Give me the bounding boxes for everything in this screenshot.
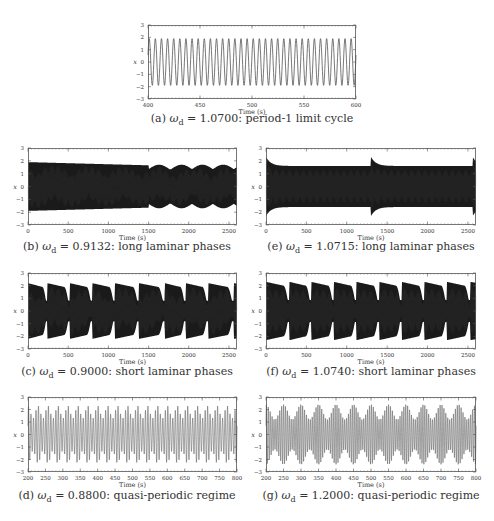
svg-text:1000: 1000 bbox=[340, 352, 354, 358]
svg-text:600: 600 bbox=[351, 102, 362, 108]
panel-letter: (e) bbox=[267, 240, 282, 253]
svg-text:300: 300 bbox=[58, 475, 69, 481]
svg-text:0: 0 bbox=[21, 184, 25, 190]
svg-text:200: 200 bbox=[23, 475, 34, 481]
subplot-a: −3−2−10123400450500550600Time (s)x bbox=[148, 25, 356, 99]
svg-text:550: 550 bbox=[299, 102, 310, 108]
svg-text:2000: 2000 bbox=[421, 228, 435, 234]
caption-d: (d) ωd = 0.8800: quasi-periodic regime bbox=[12, 489, 242, 504]
omega-symbol: ω bbox=[282, 365, 291, 378]
svg-text:650: 650 bbox=[418, 475, 429, 481]
svg-text:2000: 2000 bbox=[182, 228, 196, 234]
plot-area: −3−2−1012305001000150020002500Time (s)x bbox=[28, 148, 237, 225]
svg-text:0: 0 bbox=[264, 352, 268, 358]
svg-text:300: 300 bbox=[296, 475, 307, 481]
subplot-c: −3−2−1012305001000150020002500Time (s)x bbox=[28, 273, 237, 349]
svg-text:1: 1 bbox=[21, 171, 25, 177]
svg-text:1: 1 bbox=[259, 171, 263, 177]
panel-description: long laminar phases bbox=[118, 240, 231, 253]
y-axis-label: x bbox=[13, 431, 17, 439]
svg-text:0: 0 bbox=[21, 308, 25, 314]
plot-area: −3−2−10123200250300350400450500550600650… bbox=[28, 397, 237, 472]
svg-text:1500: 1500 bbox=[142, 352, 156, 358]
svg-text:−1: −1 bbox=[136, 71, 144, 77]
omega-symbol: ω bbox=[42, 240, 51, 253]
svg-text:450: 450 bbox=[110, 475, 121, 481]
omega-value: = 0.9132: bbox=[60, 240, 115, 253]
caption-a: (a) ωd = 1.0700: period-1 limit cycle bbox=[137, 112, 367, 127]
svg-text:−2: −2 bbox=[136, 84, 144, 90]
x-axis-label: Time (s) bbox=[119, 481, 146, 489]
svg-text:−1: −1 bbox=[254, 196, 262, 202]
omega-value: = 0.9000: bbox=[57, 365, 112, 378]
plot-area: −3−2−10123200250300350400450500550600650… bbox=[266, 397, 476, 472]
svg-text:1500: 1500 bbox=[380, 228, 394, 234]
y-axis-label: x bbox=[13, 307, 17, 315]
svg-text:400: 400 bbox=[331, 475, 342, 481]
svg-text:0: 0 bbox=[259, 308, 263, 314]
svg-text:3: 3 bbox=[259, 145, 263, 151]
panel-description: period-1 limit cycle bbox=[246, 112, 354, 125]
svg-text:1: 1 bbox=[21, 419, 25, 425]
svg-text:650: 650 bbox=[180, 475, 191, 481]
svg-text:750: 750 bbox=[453, 475, 464, 481]
svg-text:0: 0 bbox=[21, 432, 25, 438]
svg-text:−2: −2 bbox=[254, 209, 262, 215]
svg-text:3: 3 bbox=[141, 22, 145, 28]
svg-text:350: 350 bbox=[75, 475, 86, 481]
svg-text:550: 550 bbox=[145, 475, 156, 481]
svg-text:−1: −1 bbox=[254, 444, 262, 450]
svg-text:−3: −3 bbox=[16, 346, 25, 352]
svg-text:2: 2 bbox=[259, 158, 263, 164]
svg-text:−2: −2 bbox=[16, 457, 24, 463]
svg-text:450: 450 bbox=[348, 475, 359, 481]
svg-text:0: 0 bbox=[26, 228, 30, 234]
caption-b: (b) ωd = 0.9132: long laminar phases bbox=[12, 240, 242, 255]
svg-text:800: 800 bbox=[232, 475, 243, 481]
omega-subscript: d bbox=[291, 495, 296, 504]
caption-f: (f) ωd = 1.0740: short laminar phases bbox=[256, 365, 486, 380]
svg-text:0: 0 bbox=[259, 184, 263, 190]
panel-description: quasi-periodic regime bbox=[114, 489, 236, 502]
svg-text:2500: 2500 bbox=[461, 352, 475, 358]
svg-text:−2: −2 bbox=[254, 457, 262, 463]
svg-text:250: 250 bbox=[40, 475, 51, 481]
omega-subscript: d bbox=[51, 246, 56, 255]
svg-text:500: 500 bbox=[301, 228, 312, 234]
panel-letter: (a) bbox=[151, 112, 166, 125]
svg-text:750: 750 bbox=[214, 475, 225, 481]
svg-text:3: 3 bbox=[21, 394, 25, 400]
svg-text:1000: 1000 bbox=[101, 352, 115, 358]
svg-text:−3: −3 bbox=[254, 222, 263, 228]
panel-letter: (g) bbox=[262, 489, 278, 502]
svg-text:400: 400 bbox=[92, 475, 103, 481]
svg-text:−1: −1 bbox=[16, 196, 24, 202]
svg-text:−2: −2 bbox=[254, 333, 262, 339]
caption-c: (c) ωd = 0.9000: short laminar phases bbox=[12, 365, 242, 380]
subplot-g: −3−2−10123200250300350400450500550600650… bbox=[266, 397, 476, 472]
svg-text:1: 1 bbox=[259, 419, 263, 425]
svg-text:0: 0 bbox=[264, 228, 268, 234]
svg-text:2500: 2500 bbox=[461, 228, 475, 234]
caption-e: (e) ωd = 1.0715: long laminar phases bbox=[256, 240, 486, 255]
svg-text:600: 600 bbox=[401, 475, 412, 481]
omega-subscript: d bbox=[291, 371, 296, 380]
svg-text:2000: 2000 bbox=[182, 352, 196, 358]
svg-text:700: 700 bbox=[197, 475, 208, 481]
svg-text:−1: −1 bbox=[254, 321, 262, 327]
svg-text:1: 1 bbox=[21, 295, 25, 301]
svg-text:2: 2 bbox=[21, 283, 25, 289]
svg-text:−2: −2 bbox=[16, 209, 24, 215]
y-axis-label: x bbox=[251, 431, 255, 439]
svg-text:−3: −3 bbox=[254, 346, 263, 352]
svg-text:3: 3 bbox=[259, 394, 263, 400]
svg-text:500: 500 bbox=[127, 475, 138, 481]
svg-text:−1: −1 bbox=[16, 321, 24, 327]
panel-letter: (d) bbox=[18, 489, 34, 502]
svg-text:500: 500 bbox=[63, 352, 74, 358]
svg-text:2: 2 bbox=[21, 158, 25, 164]
panel-description: short laminar phases bbox=[358, 365, 475, 378]
omega-value: = 1.0700: bbox=[187, 112, 242, 125]
panel-description: quasi-periodic regime bbox=[358, 489, 480, 502]
svg-text:3: 3 bbox=[259, 270, 263, 276]
